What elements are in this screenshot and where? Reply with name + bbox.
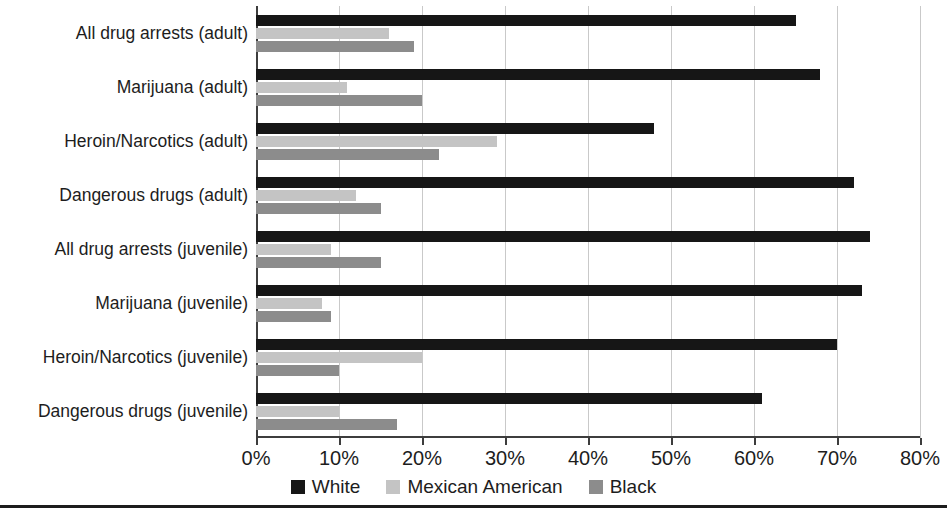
bar-white-6 [256, 285, 862, 296]
x-tick-mark [505, 438, 507, 445]
bar-black-8 [256, 419, 397, 430]
x-tick-mark [422, 438, 424, 445]
bar-group [256, 168, 920, 222]
bar-black-6 [256, 311, 331, 322]
x-tick-label: 70% [817, 446, 857, 470]
category-label: Dangerous drugs (adult) [6, 185, 256, 205]
x-tick-label: 50% [651, 446, 691, 470]
category-label: All drug arrests (juvenile) [6, 239, 256, 259]
bar-mexican-american-7 [256, 352, 422, 363]
bar-chart: All drug arrests (adult)Marijuana (adult… [0, 0, 947, 508]
bar-group [256, 114, 920, 168]
category-label: All drug arrests (adult) [6, 23, 256, 43]
legend-label: Black [610, 476, 656, 498]
x-tick-mark [339, 438, 341, 445]
bar-black-7 [256, 365, 339, 376]
x-tick-mark [837, 438, 839, 445]
category-label: Marijuana (adult) [6, 77, 256, 97]
x-tick-label: 20% [402, 446, 442, 470]
bar-mexican-american-8 [256, 406, 339, 417]
bar-white-4 [256, 177, 854, 188]
x-tick-label: 60% [734, 446, 774, 470]
bar-white-2 [256, 69, 820, 80]
bar-mexican-american-6 [256, 298, 322, 309]
legend-label: Mexican American [407, 476, 562, 498]
x-tick-mark [588, 438, 590, 445]
bar-white-5 [256, 231, 870, 242]
bar-white-7 [256, 339, 837, 350]
gridline [920, 6, 921, 438]
bar-white-3 [256, 123, 654, 134]
bar-black-3 [256, 149, 439, 160]
legend-swatch-icon [589, 480, 603, 494]
x-tick-mark [920, 438, 922, 445]
bar-black-2 [256, 95, 422, 106]
bar-mexican-american-4 [256, 190, 356, 201]
x-tick-mark [754, 438, 756, 445]
legend: WhiteMexican AmericanBlack [0, 476, 947, 498]
legend-swatch-icon [386, 480, 400, 494]
legend-item-black[interactable]: Black [589, 476, 656, 498]
legend-label: White [312, 476, 361, 498]
bar-white-8 [256, 393, 762, 404]
bar-mexican-american-5 [256, 244, 331, 255]
x-tick-mark [256, 438, 258, 445]
bar-white-1 [256, 15, 796, 26]
bar-mexican-american-2 [256, 82, 347, 93]
bar-mexican-american-3 [256, 136, 497, 147]
bar-group [256, 330, 920, 384]
category-label: Marijuana (juvenile) [6, 293, 256, 313]
plot-area [256, 6, 920, 438]
x-tick-label: 80% [900, 446, 940, 470]
category-axis-labels: All drug arrests (adult)Marijuana (adult… [0, 6, 256, 438]
x-tick-label: 0% [242, 446, 271, 470]
bar-group [256, 384, 920, 438]
x-tick-label: 40% [568, 446, 608, 470]
bar-group [256, 222, 920, 276]
bar-group [256, 60, 920, 114]
bar-black-5 [256, 257, 381, 268]
category-label: Heroin/Narcotics (juvenile) [6, 347, 256, 367]
bar-group [256, 6, 920, 60]
category-label: Heroin/Narcotics (adult) [6, 131, 256, 151]
x-tick-label: 30% [485, 446, 525, 470]
bar-group [256, 276, 920, 330]
legend-item-white[interactable]: White [291, 476, 361, 498]
bar-black-4 [256, 203, 381, 214]
x-tick-label: 10% [319, 446, 359, 470]
legend-swatch-icon [291, 480, 305, 494]
value-axis: 0%10%20%30%40%50%60%70%80% [256, 438, 920, 472]
bar-mexican-american-1 [256, 28, 389, 39]
category-label: Dangerous drugs (juvenile) [6, 401, 256, 421]
x-tick-mark [671, 438, 673, 445]
legend-item-mexican-american[interactable]: Mexican American [386, 476, 562, 498]
bar-black-1 [256, 41, 414, 52]
